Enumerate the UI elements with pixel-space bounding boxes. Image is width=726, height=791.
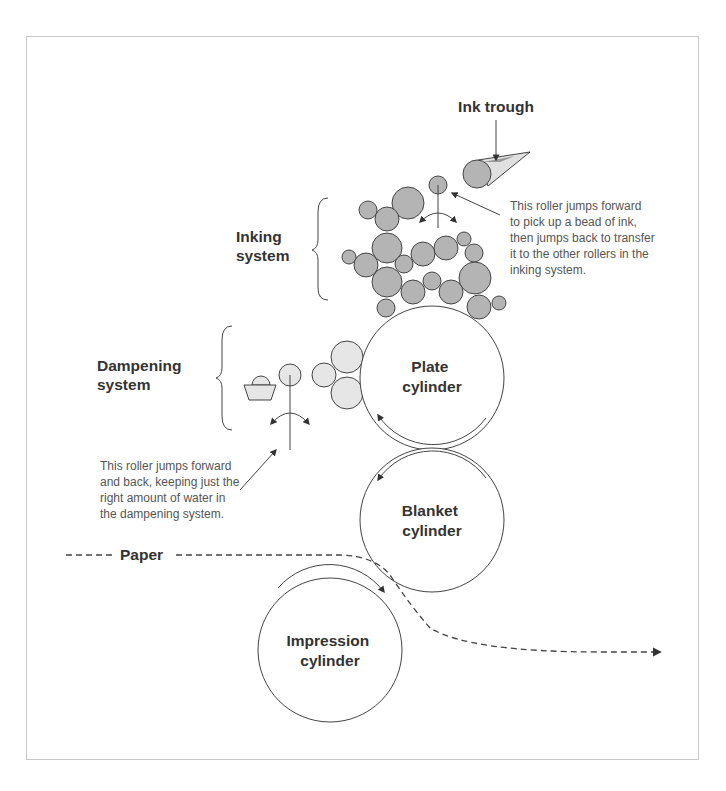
inking-system-label: Inking system bbox=[236, 228, 289, 264]
inking-system-brace bbox=[312, 198, 328, 300]
dampening-roller-note: This roller jumps forward and back, keep… bbox=[100, 459, 243, 521]
dampening-note-pointer bbox=[240, 450, 276, 490]
impression-cylinder: Impression cylinder bbox=[258, 565, 402, 722]
dampening-system-label: Dampening system bbox=[97, 357, 186, 393]
inking-rollers bbox=[342, 176, 506, 319]
dampening-rollers bbox=[312, 341, 363, 409]
dampening-system-brace bbox=[216, 326, 232, 430]
blanket-cylinder: Blanket cylinder bbox=[360, 448, 504, 592]
ink-note-pointer bbox=[452, 193, 500, 215]
plate-cylinder: Plate cylinder bbox=[360, 306, 504, 450]
water-fountain bbox=[244, 376, 276, 400]
paper-label: Paper bbox=[120, 546, 163, 563]
offset-press-diagram: Ink trough This roller jumps forward to … bbox=[0, 0, 726, 791]
ink-trough-label: Ink trough bbox=[458, 98, 534, 115]
ink-roller-note: This roller jumps forward to pick up a b… bbox=[510, 199, 658, 277]
